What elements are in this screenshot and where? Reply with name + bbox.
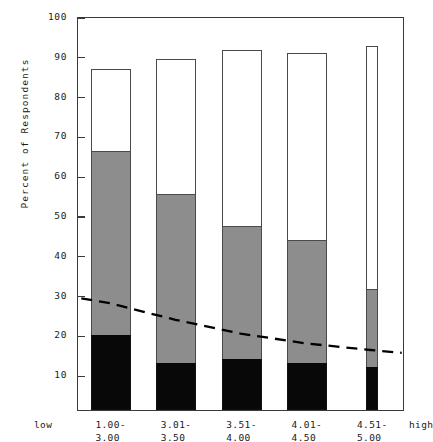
x-tick-label-line: 5.00	[357, 432, 388, 442]
x-tick-label-line: 3.51-	[226, 419, 257, 432]
x-tick-label-4: 4.51-5.00	[357, 410, 388, 442]
x-tick-label-3: 4.01-4.50	[292, 410, 323, 442]
y-tick-label: 10	[54, 369, 67, 380]
x-tick-label-line: 3.00	[95, 432, 126, 442]
x-axis-high-label: high	[409, 410, 433, 430]
x-tick-label-line: 1.00-	[95, 419, 126, 432]
y-tick-label: 50	[54, 210, 67, 221]
y-tick-label: 70	[54, 130, 67, 141]
x-tick-label-1: 3.01-3.50	[161, 410, 192, 442]
x-axis-low-label: low	[34, 410, 52, 430]
y-tick-label: 30	[54, 290, 67, 301]
x-tick-label-line: 3.50	[161, 432, 192, 442]
x-tick-label-line: 4.51-	[357, 419, 388, 432]
plot-area: 100 90 80 70 60 50 40 30	[77, 17, 404, 411]
x-tick-label-line: 3.01-	[161, 419, 192, 432]
x-tick-label-0: 1.00-3.00	[95, 410, 126, 442]
x-tick-label-line: 4.00	[226, 432, 257, 442]
dashed-trend-line	[78, 18, 403, 410]
y-tick-label: 90	[54, 51, 67, 62]
x-tick-label-line: 4.01-	[292, 419, 323, 432]
x-tick-label-2: 3.51-4.00	[226, 410, 257, 442]
y-tick-label: 40	[54, 250, 67, 261]
y-tick-label: 20	[54, 329, 67, 340]
y-tick-label: 100	[48, 11, 67, 22]
y-tick-label: 80	[54, 91, 67, 102]
x-tick-label-line: 4.50	[292, 432, 323, 442]
y-axis-title: Percent of Respondents	[19, 24, 30, 244]
y-tick-label: 60	[54, 170, 67, 181]
